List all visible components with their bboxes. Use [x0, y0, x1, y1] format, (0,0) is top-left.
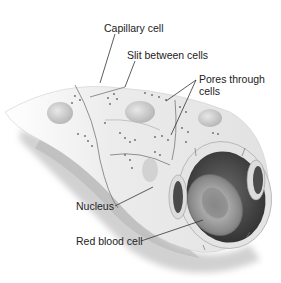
wall-section-nucleus [173, 181, 183, 213]
nucleus-bulge [198, 109, 222, 127]
label-pores-line1: Pores through [199, 73, 265, 85]
wall-section-nucleus [253, 166, 263, 194]
capillary-diagram: Capillary cell Slit between cells Pores … [0, 0, 281, 283]
label-nucleus: Nucleus [76, 200, 114, 212]
nucleus-bulge [142, 158, 158, 182]
nucleus-bulge [47, 102, 73, 124]
label-pores-line2: cells [199, 85, 265, 97]
label-pores-through-cells: Pores through cells [199, 73, 265, 97]
label-slit-between-cells: Slit between cells [127, 49, 208, 61]
label-capillary-cell: Capillary cell [104, 22, 164, 34]
label-red-blood-cell: Red blood cell [76, 235, 143, 247]
nucleus-bulge [125, 101, 155, 123]
